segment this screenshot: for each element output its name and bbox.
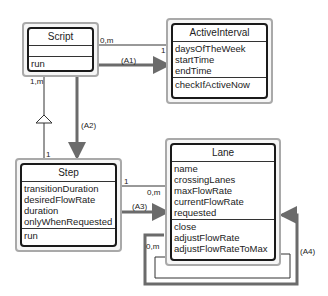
mult-step-lane-to: 0,m [147,188,160,197]
operations-section: run [29,57,92,70]
class-lane-box: Lane name crossingLanes maxFlowRate curr… [170,143,276,261]
attributes-section: daysOfTheWeek startTime endTime [173,42,266,78]
mult-script-activeinterval-from: 0,m [100,36,113,45]
attribute: desiredFlowRate [24,194,113,205]
operation: run [24,230,113,241]
class-title: Lane [172,145,274,162]
operations-section: run [22,229,115,242]
mult-script-activeinterval-to: 1 [161,46,165,55]
class-title: ActiveInterval [173,25,266,42]
label-a1: (A1) [121,56,136,65]
class-activeinterval: ActiveInterval daysOfTheWeek startTime e… [166,18,273,104]
class-step: Step transitionDuration desiredFlowRate … [15,158,122,252]
class-lane: Lane name crossingLanes maxFlowRate curr… [165,138,281,266]
class-title: Script [29,29,92,46]
attribute: currentFlowRate [174,196,272,207]
attribute: transitionDuration [24,183,113,194]
generalization-triangle-icon [36,115,52,123]
operation: close [174,221,272,232]
attribute: name [174,163,272,174]
mult-lane-self: 0,m [146,242,159,251]
attributes-section [29,46,92,57]
operation: checkIfActiveNow [175,79,264,90]
attribute: duration [24,205,113,216]
attribute: daysOfTheWeek [175,43,264,54]
label-a3: (A3) [132,202,147,211]
attribute: maxFlowRate [174,185,272,196]
class-script: Script run [22,22,99,77]
class-step-box: Step transitionDuration desiredFlowRate … [20,163,117,247]
attribute: requested [174,207,272,218]
class-activeinterval-box: ActiveInterval daysOfTheWeek startTime e… [171,23,268,99]
operation: adjustFlowRate [174,232,272,243]
label-a4: (A4) [300,247,315,256]
attribute: crossingLanes [174,174,272,185]
operations-section: close adjustFlowRate adjustFlowRateToMax [172,220,274,255]
attributes-section: name crossingLanes maxFlowRate currentFl… [172,162,274,220]
class-title: Step [22,165,115,182]
class-script-box: Script run [27,27,94,72]
attribute: onlyWhenRequested [24,216,113,227]
attributes-section: transitionDuration desiredFlowRate durat… [22,182,115,229]
attribute: endTime [175,65,264,76]
operation: adjustFlowRateToMax [174,243,272,254]
mult-step-lane-from: 1 [124,177,128,186]
operation: run [31,58,90,69]
operations-section: checkIfActiveNow [173,78,266,91]
attribute: startTime [175,54,264,65]
label-a2: (A2) [81,121,96,130]
mult-script-step-from: 1,m [30,77,43,86]
mult-script-step-to: 1 [46,150,50,159]
